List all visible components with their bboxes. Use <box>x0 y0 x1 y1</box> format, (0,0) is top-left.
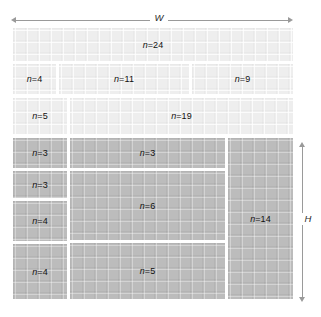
packing-rect: n=24 <box>13 28 293 61</box>
rect-sample-size-label: n=4 <box>32 216 48 226</box>
packing-rect: n=4 <box>13 64 56 94</box>
rect-sample-size-label: n=5 <box>140 266 156 276</box>
packing-rect: n=4 <box>13 201 67 241</box>
packing-rect: n=11 <box>59 64 189 94</box>
rect-sample-size-label: n=6 <box>140 201 156 211</box>
packing-rect: n=9 <box>192 64 293 94</box>
height-label: H <box>302 213 314 225</box>
packing-diagram-figure: W H n=24n=4n=11n=9n=5n=19n=3n=3n=3n=6n=4… <box>0 0 321 317</box>
packing-rect: n=4 <box>13 244 67 299</box>
packing-rect: n=3 <box>70 138 225 168</box>
rect-sample-size-label: n=14 <box>250 214 271 224</box>
packing-rect: n=19 <box>70 98 293 134</box>
width-arrow-left-icon <box>11 17 16 23</box>
rect-sample-size-label: n=9 <box>235 74 251 84</box>
height-arrow-bottom-icon <box>299 297 305 302</box>
packing-rect: n=3 <box>13 171 67 198</box>
packing-canvas: n=24n=4n=11n=9n=5n=19n=3n=3n=3n=6n=4n=5n… <box>13 28 293 299</box>
rect-sample-size-label: n=3 <box>140 148 156 158</box>
rect-sample-size-label: n=3 <box>32 180 48 190</box>
packing-rect: n=6 <box>70 171 225 240</box>
rect-sample-size-label: n=11 <box>114 74 134 84</box>
width-arrow-right-icon <box>288 17 293 23</box>
height-arrow-top-icon <box>299 142 305 147</box>
packing-rect: n=14 <box>228 138 293 299</box>
rect-sample-size-label: n=19 <box>171 111 192 121</box>
rect-sample-size-label: n=3 <box>32 148 48 158</box>
width-label: W <box>150 13 168 23</box>
rect-sample-size-label: n=4 <box>32 267 48 277</box>
packing-rect: n=5 <box>70 243 225 299</box>
packing-rect: n=5 <box>13 98 67 134</box>
rect-sample-size-label: n=24 <box>143 40 164 50</box>
packing-rect: n=3 <box>13 138 67 168</box>
rect-sample-size-label: n=4 <box>27 74 43 84</box>
rect-sample-size-label: n=5 <box>32 111 48 121</box>
